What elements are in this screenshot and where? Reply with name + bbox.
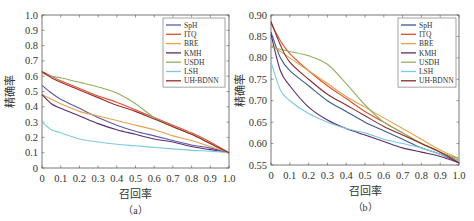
- x-tick-label: 0.6: [148, 173, 161, 184]
- legend-label: KMH: [419, 49, 437, 58]
- x-axis-label: 召回率: [119, 187, 152, 201]
- legend: SpHITQBREKMHUSDHLSHUH-BDNN: [398, 18, 456, 87]
- y-tick-label: 0.1: [25, 147, 38, 158]
- y-tick-label: 0: [33, 163, 38, 174]
- chart-panel-a: 00.10.20.30.40.50.60.70.80.91.000.10.20.…: [3, 10, 236, 217]
- y-tick-label: 0.9: [25, 25, 38, 36]
- x-tick-label: 0: [39, 173, 44, 184]
- y-tick-label: 0.2: [25, 132, 38, 143]
- x-tick-label: 0.3: [92, 173, 105, 184]
- legend-label: SpH: [419, 21, 433, 30]
- figure: 00.10.20.30.40.50.60.70.80.91.000.10.20.…: [0, 0, 474, 221]
- legend-label: ITQ: [419, 30, 432, 39]
- x-tick-label: 0.9: [434, 170, 447, 181]
- x-tick-label: 1.0: [452, 170, 465, 181]
- x-tick-label: 0.2: [302, 170, 315, 181]
- x-tick-label: 0.7: [396, 170, 409, 181]
- x-tick-label: 0: [268, 170, 273, 181]
- y-axis-label: 精确率: [233, 74, 247, 107]
- y-tick-label: 0.5: [25, 86, 38, 97]
- x-tick-label: 0.4: [340, 170, 354, 181]
- x-tick-label: 0.9: [204, 173, 217, 184]
- legend-label: UH-BDNN: [184, 76, 219, 85]
- y-tick-label: 0.85: [249, 31, 267, 42]
- x-tick-label: 0.3: [321, 170, 334, 181]
- y-tick-label: 0.8: [25, 40, 38, 51]
- y-axis-label: 精确率: [3, 75, 17, 108]
- x-tick-label: 0.5: [129, 173, 142, 184]
- y-tick-label: 0.90: [249, 10, 267, 21]
- panel-label: （a）: [123, 205, 147, 216]
- x-tick-label: 0.1: [54, 173, 67, 184]
- legend-label: UH-BDNN: [419, 76, 454, 85]
- x-tick-label: 0.8: [185, 173, 198, 184]
- y-tick-label: 0.65: [249, 117, 267, 128]
- legend: SpHITQBREKMHUSDHLSHUH-BDNN: [163, 18, 225, 87]
- legend-label: KMH: [184, 49, 202, 58]
- x-tick-label: 0.8: [415, 170, 428, 181]
- legend-label: SpH: [184, 21, 198, 30]
- y-tick-label: 0.80: [249, 52, 267, 63]
- x-axis-label: 召回率: [349, 184, 382, 198]
- legend-label: USDH: [419, 58, 440, 67]
- legend-label: LSH: [184, 67, 199, 76]
- panel-label: （b）: [353, 202, 378, 213]
- legend-label: BRE: [419, 39, 434, 48]
- y-tick-label: 1.0: [25, 10, 38, 21]
- y-tick-label: 0.4: [25, 101, 39, 112]
- y-tick-label: 0.70: [249, 95, 267, 106]
- x-tick-label: 0.2: [73, 173, 86, 184]
- x-tick-label: 0.7: [166, 173, 179, 184]
- x-tick-label: 0.4: [110, 173, 124, 184]
- legend-label: USDH: [184, 58, 205, 67]
- y-tick-label: 0.60: [249, 138, 267, 149]
- y-tick-label: 0.75: [249, 74, 267, 85]
- y-tick-label: 0.55: [249, 160, 267, 171]
- chart-panel-b: 00.10.20.30.40.50.60.70.80.91.00.550.600…: [233, 10, 466, 214]
- legend-label: ITQ: [184, 30, 197, 39]
- legend-label: LSH: [419, 67, 434, 76]
- y-tick-label: 0.3: [25, 117, 38, 128]
- x-tick-label: 1.0: [222, 173, 235, 184]
- legend-label: BRE: [184, 39, 199, 48]
- x-tick-label: 0.5: [358, 170, 371, 181]
- x-tick-label: 0.6: [377, 170, 390, 181]
- x-tick-label: 0.1: [283, 170, 296, 181]
- y-tick-label: 0.6: [25, 71, 38, 82]
- y-tick-label: 0.7: [25, 55, 38, 66]
- series-line-sph: [42, 85, 229, 152]
